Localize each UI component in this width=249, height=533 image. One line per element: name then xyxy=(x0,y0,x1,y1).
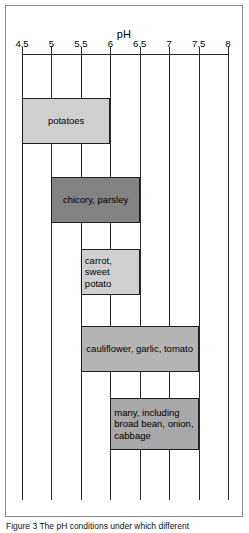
bottom-tick-mark xyxy=(199,494,200,500)
axis-line xyxy=(22,54,228,55)
range-bar: carrot, sweet potato xyxy=(81,249,140,295)
bottom-tick-mark xyxy=(51,494,52,500)
range-bar: chicory, parsley xyxy=(51,177,139,223)
tick-mark xyxy=(51,47,52,54)
range-bar: potatoes xyxy=(22,98,110,144)
bottom-tick-mark xyxy=(140,494,141,500)
tick-mark xyxy=(228,47,229,54)
tick-mark xyxy=(199,47,200,54)
bottom-tick-mark xyxy=(169,494,170,500)
range-bar-label: cauliflower, garlic, tomato xyxy=(86,343,193,355)
bottom-tick-mark xyxy=(110,494,111,500)
bottom-tick-mark xyxy=(228,494,229,500)
figure-panel: pH 4.555.566.577.58 potatoeschicory, par… xyxy=(5,5,243,517)
plot-area: 4.555.566.577.58 potatoeschicory, parsle… xyxy=(22,54,228,494)
range-bar: cauliflower, garlic, tomato xyxy=(81,326,199,372)
bottom-tick-mark xyxy=(22,494,23,500)
tick-mark xyxy=(81,47,82,54)
tick-mark xyxy=(169,47,170,54)
tick-mark xyxy=(110,47,111,54)
tick-mark xyxy=(22,47,23,54)
range-bar: many, including broad bean, onion, cabba… xyxy=(110,398,198,450)
range-bar-label: many, including broad bean, onion, cabba… xyxy=(114,407,193,442)
tick-mark xyxy=(140,47,141,54)
axis-title: pH xyxy=(6,28,242,40)
gridline xyxy=(228,54,229,494)
figure-caption: Figure 3 The pH conditions under which d… xyxy=(6,521,246,531)
bottom-tick-mark xyxy=(81,494,82,500)
range-bar-label: carrot, sweet potato xyxy=(85,255,136,290)
range-bar-label: potatoes xyxy=(48,115,84,127)
range-bar-label: chicory, parsley xyxy=(63,194,128,206)
gridline xyxy=(199,54,200,494)
